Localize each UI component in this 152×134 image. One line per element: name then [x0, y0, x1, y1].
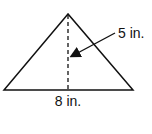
height-label: 5 in. — [118, 25, 144, 41]
triangle-diagram: 5 in. 8 in. — [0, 0, 152, 134]
base-label: 8 in. — [55, 93, 81, 109]
height-arrow — [72, 33, 115, 56]
